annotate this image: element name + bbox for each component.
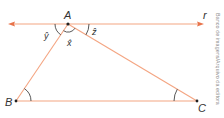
point-a bbox=[66, 22, 69, 25]
arrow-left-icon bbox=[8, 22, 15, 27]
side-ab bbox=[16, 24, 68, 101]
point-b bbox=[15, 100, 18, 103]
angle-z-arc bbox=[86, 24, 89, 35]
line-r bbox=[8, 22, 204, 27]
label-a: A bbox=[63, 9, 71, 21]
label-r: r bbox=[203, 9, 208, 21]
label-b: B bbox=[5, 96, 12, 108]
angle-y-arc bbox=[55, 24, 61, 35]
label-c: C bbox=[198, 102, 206, 114]
angle-b-arc bbox=[24, 89, 31, 101]
arrow-right-icon bbox=[197, 22, 204, 27]
label-angle-x: x̂ bbox=[66, 38, 72, 48]
label-angle-y: ŷ bbox=[43, 31, 49, 41]
label-angle-z: ẑ bbox=[91, 27, 97, 37]
triangle-parallel-line-diagram: A B C r ŷ x̂ ẑ bbox=[0, 0, 224, 118]
image-credit-text: Banco de imagens/Arquivo da editora bbox=[215, 13, 221, 105]
angle-c-arc bbox=[174, 89, 177, 101]
image-credit: Banco de imagens/Arquivo da editora bbox=[213, 2, 223, 116]
